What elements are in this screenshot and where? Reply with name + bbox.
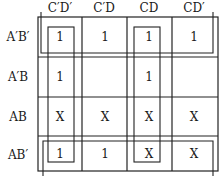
row-header-ab-prime: AB′ bbox=[0, 148, 36, 162]
kmap-cell bbox=[83, 58, 127, 96]
kmap-cell: X bbox=[38, 98, 82, 136]
column-header-c-prime-d: C′D bbox=[82, 1, 126, 15]
karnaugh-map: C′D′ C′D CD CD′ A′B′ A′B AB AB′ 1 1 1 1 … bbox=[0, 0, 224, 184]
kmap-cell: X bbox=[127, 98, 171, 136]
column-header-c-prime-d-prime: C′D′ bbox=[38, 1, 82, 15]
kmap-cell: 1 bbox=[83, 18, 127, 56]
kmap-cell: 1 bbox=[38, 135, 82, 173]
kmap-cell: 1 bbox=[127, 58, 171, 96]
row-header-a-prime-b: A′B bbox=[0, 70, 36, 84]
kmap-cell: X bbox=[83, 98, 127, 136]
kmap-cell: 1 bbox=[172, 18, 216, 56]
row-header-ab: AB bbox=[0, 110, 36, 124]
kmap-cell: X bbox=[172, 135, 216, 173]
kmap-cell: 1 bbox=[127, 18, 171, 56]
column-header-cd-prime: CD′ bbox=[172, 1, 216, 15]
kmap-cell: 1 bbox=[83, 135, 127, 173]
kmap-cell: 1 bbox=[38, 58, 82, 96]
kmap-cell: X bbox=[127, 135, 171, 173]
row-header-a-prime-b-prime: A′B′ bbox=[0, 30, 36, 44]
column-header-cd: CD bbox=[127, 1, 171, 15]
kmap-cell bbox=[172, 58, 216, 96]
kmap-cell: X bbox=[172, 98, 216, 136]
kmap-cell: 1 bbox=[38, 18, 82, 56]
